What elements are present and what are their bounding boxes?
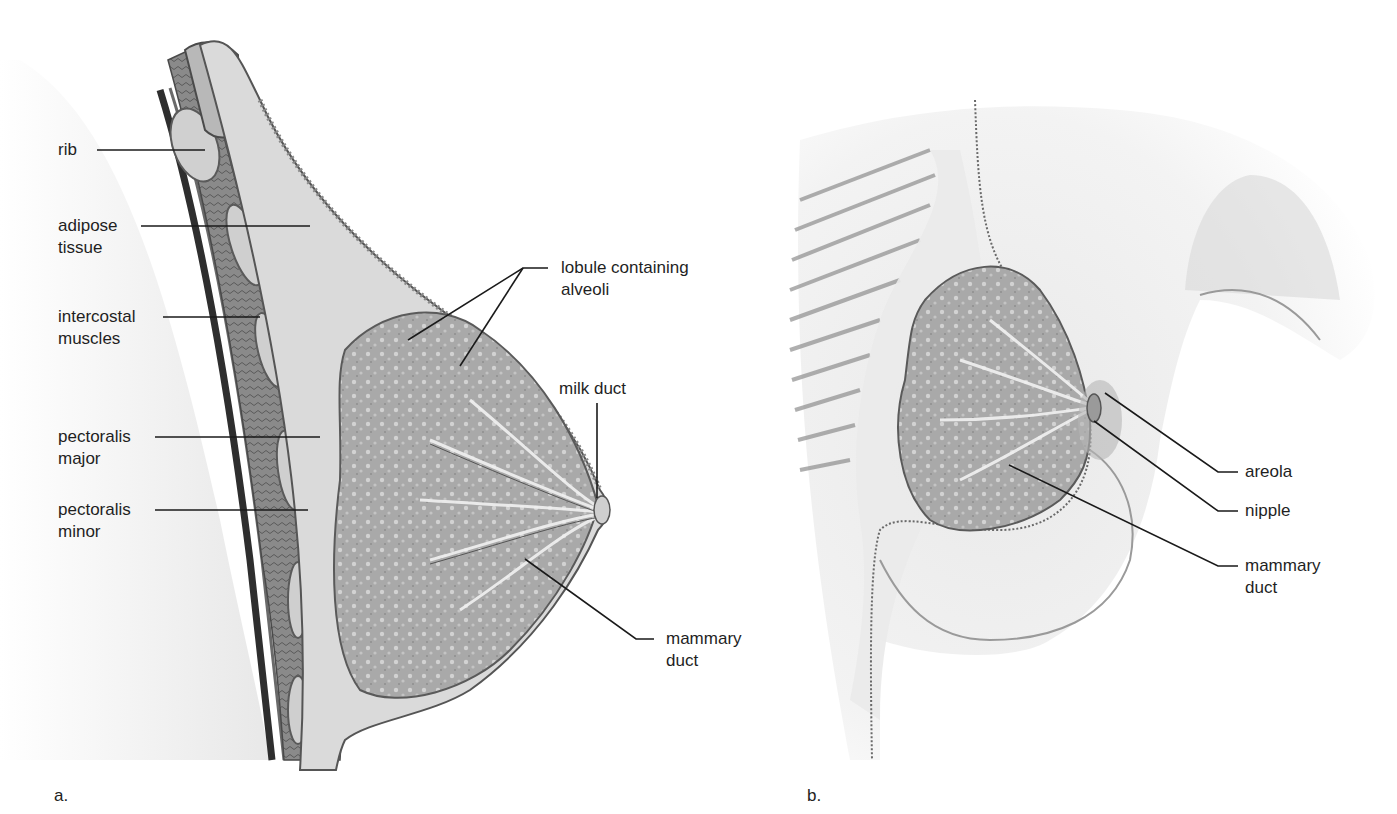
label-pectoralis-major: pectoralis major [58, 426, 131, 470]
panel-b-letter: b. [807, 786, 821, 806]
label-intercostal-muscles: intercostal muscles [58, 306, 135, 350]
label-pectoralis-minor: pectoralis minor [58, 499, 131, 543]
label-milk-duct: milk duct [559, 378, 626, 400]
label-lobule-containing-alveoli: lobule containing alveoli [561, 257, 689, 301]
panel-a-letter: a. [54, 786, 68, 806]
panel-b-drawing [790, 100, 1375, 760]
label-rib: rib [58, 139, 77, 161]
label-areola: areola [1245, 461, 1292, 483]
label-mammary-duct-a: mammary duct [666, 628, 742, 672]
figure-canvas: rib adipose tissue intercostal muscles p… [0, 0, 1397, 814]
panel-a-drawing [0, 41, 610, 770]
label-adipose-tissue: adipose tissue [58, 215, 118, 259]
label-nipple: nipple [1245, 500, 1290, 522]
illustration [0, 0, 1397, 814]
label-mammary-duct-b: mammary duct [1245, 555, 1321, 599]
